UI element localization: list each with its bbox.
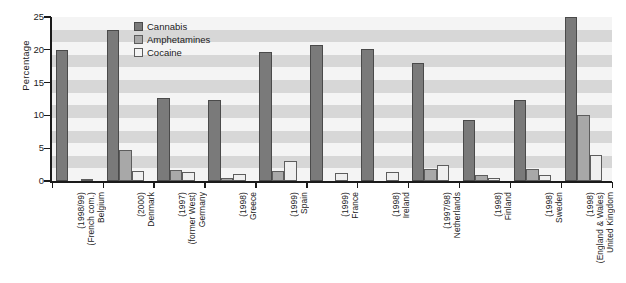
x-axis-label-line: Belgium <box>96 192 106 223</box>
background-band <box>52 156 612 169</box>
x-axis-label-line: (1998) <box>544 192 554 217</box>
bar-amph <box>424 169 437 181</box>
legend-item-amphetamines: Amphetamines <box>134 34 210 46</box>
y-tick <box>44 82 51 83</box>
x-axis-label-line: (1998) <box>493 192 503 217</box>
x-tick <box>204 182 205 188</box>
bar-cannabis <box>412 63 425 181</box>
x-axis-label: Ireland(1998) <box>360 192 411 280</box>
bar-cannabis <box>514 100 527 181</box>
x-tick <box>612 182 613 188</box>
x-tick <box>561 182 562 188</box>
legend-swatch-cocaine <box>134 48 143 57</box>
x-axis-label: Belgium(French com.)(1998/99) <box>55 192 106 280</box>
y-tick <box>44 16 51 17</box>
x-axis-label-line: (French com.) <box>86 192 96 245</box>
legend-swatch-amphetamines <box>134 35 143 44</box>
background-band <box>52 105 612 118</box>
bar-coca <box>386 172 399 181</box>
background-band <box>52 143 612 156</box>
x-axis-label-line: Denmark <box>146 192 156 227</box>
bar-coca <box>132 171 145 181</box>
x-axis-label-line: (1998) <box>585 192 595 217</box>
x-axis-label-line: Finland <box>503 192 513 220</box>
bar-amph <box>119 150 132 181</box>
background-band <box>52 93 612 106</box>
x-tick <box>153 182 154 188</box>
x-tick <box>255 182 256 188</box>
background-band <box>52 80 612 93</box>
x-axis-label-line: (England & Wales) <box>595 192 605 263</box>
bar-coca <box>437 165 450 181</box>
x-axis-label-line: (1997) <box>177 192 187 217</box>
bar-coca <box>182 172 195 181</box>
bar-amph <box>170 170 183 181</box>
bar-coca <box>233 174 246 181</box>
background-band <box>52 67 612 80</box>
bar-cannabis <box>107 30 120 181</box>
x-tick <box>459 182 460 188</box>
bar-amph <box>577 115 590 181</box>
x-axis-label-line: (former West) <box>187 192 197 244</box>
bar-coca <box>284 161 297 181</box>
y-tick <box>44 180 51 181</box>
legend-swatch-cannabis <box>134 22 143 31</box>
x-axis-label: Spain(1999) <box>258 192 309 280</box>
x-axis-label: Netherlands(1997/98) <box>411 192 462 280</box>
bar-cannabis <box>361 49 374 181</box>
y-tick <box>44 49 51 50</box>
x-axis-label-line: Germany <box>197 192 207 227</box>
y-tick <box>44 148 51 149</box>
legend-item-cannabis: Cannabis <box>134 21 210 33</box>
x-axis-label-line: Netherlands <box>452 192 462 238</box>
legend-label-cannabis: Cannabis <box>147 21 187 32</box>
x-axis-label-line: (1999) <box>289 192 299 217</box>
x-axis-label-line: (2000) <box>136 192 146 217</box>
x-axis-label: Greece(1998) <box>207 192 258 280</box>
x-axis-label: France(1999) <box>309 192 360 280</box>
x-tick <box>52 182 53 188</box>
bar-cannabis <box>463 120 476 181</box>
x-axis-label: Finland(1998) <box>462 192 513 280</box>
bar-chart-figure: Percentage 0510152025 Cannabis Amphetami… <box>0 0 626 283</box>
y-tick-label: 20 <box>24 44 44 55</box>
chart-legend: Cannabis Amphetamines Cocaine <box>134 21 210 60</box>
x-axis-label-line: (1998) <box>238 192 248 217</box>
x-tick <box>103 182 104 188</box>
x-axis-label-line: (1997/98) <box>442 192 452 229</box>
x-tick <box>357 182 358 188</box>
y-tick-label: 0 <box>24 175 44 186</box>
y-axis-line <box>50 17 52 182</box>
bar-cannabis <box>310 45 323 181</box>
bar-amph <box>272 171 285 181</box>
background-band <box>52 118 612 131</box>
y-tick-label: 15 <box>24 77 44 88</box>
x-axis-label-line: (1998/99) <box>76 192 86 229</box>
y-tick-label: 10 <box>24 109 44 120</box>
x-axis-label: United Kingdom(England & Wales)(1998) <box>564 192 615 280</box>
x-axis-label-line: (1998) <box>391 192 401 217</box>
x-axis-label-line: (1999) <box>340 192 350 217</box>
bar-cannabis <box>157 98 170 181</box>
legend-label-cocaine: Cocaine <box>147 47 182 58</box>
x-axis-label-line: Sweden <box>554 192 564 223</box>
y-tick-label: 5 <box>24 142 44 153</box>
bar-coca <box>335 173 348 181</box>
x-axis-label-line: United Kingdom <box>605 192 615 253</box>
x-axis-label-line: Spain <box>299 192 309 214</box>
x-axis-label: Germany(former West)(1997) <box>156 192 207 280</box>
x-axis-label: Denmark(2000) <box>106 192 157 280</box>
y-tick <box>44 115 51 116</box>
x-tick <box>408 182 409 188</box>
bar-cannabis <box>56 50 69 181</box>
x-axis-label: Sweden(1998) <box>513 192 564 280</box>
bar-cannabis <box>208 100 221 181</box>
bar-amph <box>526 169 539 181</box>
x-axis-label-line: France <box>350 192 360 219</box>
x-axis-label-line: Greece <box>248 192 258 220</box>
x-axis-line <box>50 181 612 183</box>
bar-coca <box>590 155 603 181</box>
x-tick <box>306 182 307 188</box>
legend-label-amphetamines: Amphetamines <box>147 34 210 45</box>
bar-cannabis <box>259 52 272 181</box>
